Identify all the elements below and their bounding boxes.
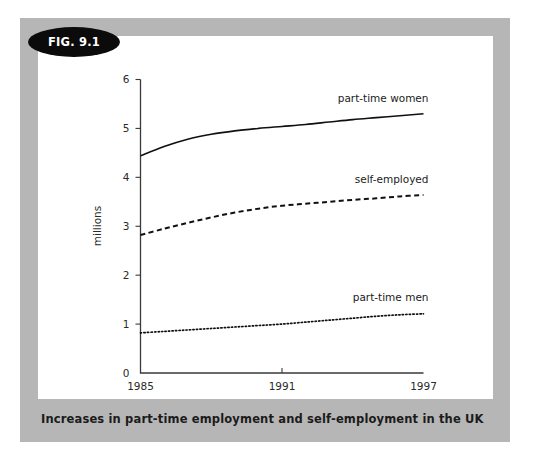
figure-caption-strip: Increases in part-time employment and se…: [38, 404, 493, 434]
figure-caption: Increases in part-time employment and se…: [38, 412, 484, 426]
plot-panel: [38, 36, 493, 399]
figure-number-badge: FIG. 9.1: [28, 27, 120, 57]
figure-number-label: FIG. 9.1: [48, 35, 100, 49]
figure-page: Increases in part-time employment and se…: [0, 0, 535, 464]
